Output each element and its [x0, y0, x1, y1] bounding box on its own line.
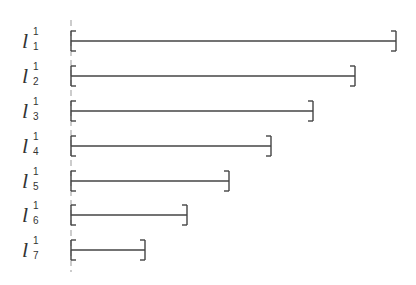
label-symbol: l [22, 63, 28, 88]
interval-bar [71, 101, 313, 121]
label-superscript: 1 [33, 235, 39, 246]
row-label: l16 [22, 202, 28, 228]
interval-bar [71, 66, 355, 86]
label-subscript: 7 [33, 250, 39, 261]
interval-bar [71, 171, 229, 191]
label-symbol: l [22, 98, 28, 123]
label-subscript: 6 [33, 215, 39, 226]
row-label: l14 [22, 133, 28, 159]
label-subscript: 3 [33, 111, 39, 122]
interval-diagram: l11l12l13l14l15l16l17 [0, 0, 416, 285]
label-subscript: 4 [33, 146, 39, 157]
row-label: l12 [22, 63, 28, 89]
label-subscript: 1 [33, 41, 39, 52]
label-symbol: l [22, 28, 28, 53]
label-superscript: 1 [33, 96, 39, 107]
label-symbol: l [22, 202, 28, 227]
interval-bar [71, 136, 271, 156]
label-symbol: l [22, 133, 28, 158]
label-superscript: 1 [33, 26, 39, 37]
label-symbol: l [22, 168, 28, 193]
label-superscript: 1 [33, 166, 39, 177]
interval-bar [71, 31, 396, 51]
interval-bar [71, 205, 187, 225]
row-label: l17 [22, 237, 28, 263]
interval-bar [71, 240, 145, 260]
label-subscript: 2 [33, 76, 39, 87]
label-subscript: 5 [33, 181, 39, 192]
label-superscript: 1 [33, 200, 39, 211]
label-superscript: 1 [33, 131, 39, 142]
row-label: l13 [22, 98, 28, 124]
interval-bars-canvas [0, 0, 416, 285]
row-label: l15 [22, 168, 28, 194]
label-superscript: 1 [33, 61, 39, 72]
row-label: l11 [22, 28, 28, 54]
label-symbol: l [22, 237, 28, 262]
